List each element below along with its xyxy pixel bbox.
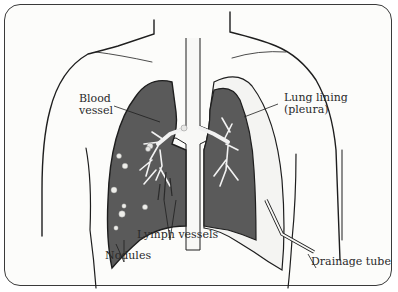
label-lymph-vessels: Lymph vessels [137, 229, 218, 241]
label-blood-vessel: Blood vessel [79, 93, 113, 117]
label-lung-lining-line2: (pleura) [284, 104, 348, 116]
label-blood-vessel-line2: vessel [79, 105, 113, 117]
label-nodules: Nodules [105, 250, 151, 262]
label-lung-lining: Lung lining (pleura) [284, 92, 348, 116]
label-drainage-tube: Drainage tube [311, 256, 391, 268]
chest-illustration [0, 0, 398, 292]
